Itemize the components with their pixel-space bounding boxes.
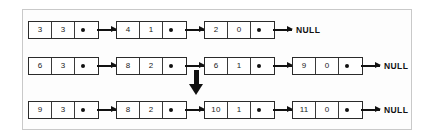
next-pointer-arrow	[273, 57, 292, 75]
list-node: 6 3	[28, 57, 99, 75]
list-node: 3 3	[28, 21, 99, 39]
node-pointer-cell	[163, 102, 186, 118]
next-pointer-arrow	[97, 21, 116, 39]
list-node: 10 1	[204, 101, 275, 119]
node-pointer-cell	[163, 22, 186, 38]
null-terminator-label: NULL	[296, 21, 320, 39]
next-pointer-arrow	[97, 57, 116, 75]
node-coefficient: 6	[205, 58, 228, 74]
node-exponent: 0	[228, 22, 251, 38]
arrow-head-icon	[189, 84, 203, 95]
arrow-stem	[194, 70, 199, 85]
node-coefficient: 9	[29, 102, 52, 118]
node-exponent: 0	[316, 102, 339, 118]
node-pointer-cell	[75, 22, 98, 38]
node-coefficient: 10	[205, 102, 228, 118]
node-coefficient: 9	[293, 58, 316, 74]
node-pointer-cell	[75, 102, 98, 118]
node-exponent: 3	[52, 58, 75, 74]
node-coefficient: 8	[117, 102, 140, 118]
null-terminator-label: NULL	[384, 101, 408, 119]
node-exponent: 3	[52, 22, 75, 38]
list-node: 9 3	[28, 101, 99, 119]
next-pointer-arrow	[185, 21, 204, 39]
list-node: 6 1	[204, 57, 275, 75]
null-pointer-arrow	[361, 57, 380, 75]
node-pointer-cell	[75, 58, 98, 74]
transition-down-arrow-icon	[187, 70, 205, 96]
node-pointer-cell	[163, 58, 186, 74]
node-coefficient: 2	[205, 22, 228, 38]
node-exponent: 1	[228, 58, 251, 74]
arrow-head-icon	[375, 106, 381, 112]
list-node: 4 1	[116, 21, 187, 39]
node-coefficient: 11	[293, 102, 316, 118]
node-coefficient: 6	[29, 58, 52, 74]
next-pointer-arrow	[97, 101, 116, 119]
node-pointer-cell	[339, 58, 362, 74]
node-coefficient: 8	[117, 58, 140, 74]
arrow-head-icon	[287, 26, 293, 32]
node-exponent: 1	[228, 102, 251, 118]
list-node: 8 2	[116, 101, 187, 119]
node-exponent: 1	[140, 22, 163, 38]
node-coefficient: 3	[29, 22, 52, 38]
null-pointer-arrow	[273, 21, 292, 39]
node-exponent: 0	[316, 58, 339, 74]
null-terminator-label: NULL	[384, 57, 408, 75]
node-exponent: 3	[52, 102, 75, 118]
list-node: 2 0	[204, 21, 275, 39]
node-coefficient: 4	[117, 22, 140, 38]
null-pointer-arrow	[361, 101, 380, 119]
list-node: 8 2	[116, 57, 187, 75]
node-exponent: 2	[140, 102, 163, 118]
node-pointer-cell	[251, 102, 274, 118]
node-pointer-cell	[251, 58, 274, 74]
diagram-frame: 3 3 4 1 2 0 NULL 6	[22, 9, 412, 130]
list-node: 11 0	[292, 101, 363, 119]
arrow-head-icon	[375, 62, 381, 68]
next-pointer-arrow	[185, 101, 204, 119]
node-pointer-cell	[339, 102, 362, 118]
next-pointer-arrow	[273, 101, 292, 119]
node-pointer-cell	[251, 22, 274, 38]
node-exponent: 2	[140, 58, 163, 74]
list-node: 9 0	[292, 57, 363, 75]
